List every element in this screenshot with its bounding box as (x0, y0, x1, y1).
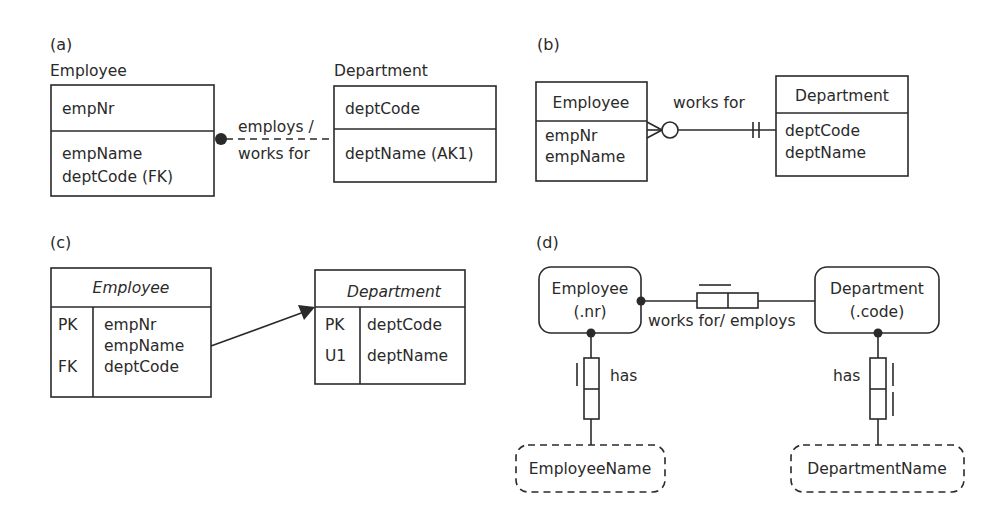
attr-empnr: empNr (62, 100, 115, 118)
attr-deptcode: deptCode (785, 122, 860, 140)
relationship-works-for: works for (647, 94, 776, 138)
attr-deptname-ak1: deptName (AK1) (345, 145, 474, 163)
attr-deptname: deptName (367, 347, 448, 365)
panel-d-label: (d) (536, 233, 559, 252)
entity-employee-title: Employee (50, 62, 127, 80)
table-employee: Employee PK empNr empName FK deptCode (51, 268, 211, 397)
entity-refmode: (.code) (850, 303, 904, 321)
attr-empname: empName (62, 145, 142, 163)
many-dot-icon (215, 133, 227, 145)
fact-label: works for/ employs (648, 312, 796, 330)
entity-employee-box: empNr empName deptCode (FK) (51, 85, 214, 196)
entity-department-title: Department (334, 62, 428, 80)
entity-department-box: Department deptCode deptName (776, 76, 908, 176)
value-type-name: EmployeeName (529, 460, 652, 478)
entity-title: Department (795, 87, 889, 105)
relationship-label: works for (673, 94, 745, 112)
key-pk: PK (325, 316, 345, 334)
fk-arrow (211, 305, 315, 346)
diagram-canvas: (a) Employee empNr empName deptCode (FK)… (0, 0, 1006, 521)
key-pk: PK (58, 316, 78, 334)
crows-foot-icon (647, 122, 662, 138)
table-title: Employee (93, 279, 170, 297)
attr-empname: empName (545, 148, 625, 166)
panel-a: (a) Employee empNr empName deptCode (FK)… (50, 35, 496, 196)
fact-employee-has-name: has EmployeeName (516, 329, 665, 493)
fact-department-has-name: has DepartmentName (791, 329, 964, 493)
panel-c: (c) Employee PK empNr empName FK deptCod… (50, 233, 465, 397)
entity-department-box: deptCode deptName (AK1) (334, 86, 496, 182)
attr-empname: empName (104, 337, 184, 355)
key-u1: U1 (325, 347, 346, 365)
attr-empnr: empNr (545, 127, 598, 145)
panel-b-label: (b) (537, 35, 560, 54)
panel-a-label: (a) (50, 35, 72, 54)
panel-c-label: (c) (50, 233, 71, 252)
value-type-name: DepartmentName (807, 460, 947, 478)
attr-deptcode-fk: deptCode (FK) (62, 168, 173, 186)
entity-title: Employee (553, 94, 630, 112)
attr-empnr: empNr (104, 316, 157, 334)
relationship-label-1: employs / (238, 118, 314, 136)
key-fk: FK (58, 358, 78, 376)
table-title: Department (347, 283, 442, 301)
entity-name: Department (830, 280, 924, 298)
attr-deptcode: deptCode (367, 316, 442, 334)
entity-refmode: (.nr) (573, 303, 606, 321)
table-department: Department PK deptCode U1 deptName (315, 270, 465, 384)
fact-label: has (833, 367, 860, 385)
relationship-label-2: works for (238, 145, 310, 163)
entity-department: Department (.code) (815, 267, 939, 333)
panel-d: (d) Employee (.nr) Department (.code) wo… (516, 233, 964, 492)
attr-deptcode: deptCode (345, 100, 420, 118)
fact-label: has (610, 367, 637, 385)
entity-employee-box: Employee empNr empName (536, 82, 647, 181)
attr-deptname: deptName (785, 144, 866, 162)
mandatory-dot-icon (637, 297, 646, 306)
entity-employee: Employee (.nr) (539, 267, 641, 333)
relationship-employs: employs / works for (215, 118, 334, 163)
panel-b: (b) Employee empNr empName Department de… (536, 35, 908, 181)
fact-works-for: works for/ employs (637, 285, 816, 330)
zero-circle-icon (662, 122, 678, 138)
entity-name: Employee (552, 280, 629, 298)
attr-deptcode: deptCode (104, 358, 179, 376)
